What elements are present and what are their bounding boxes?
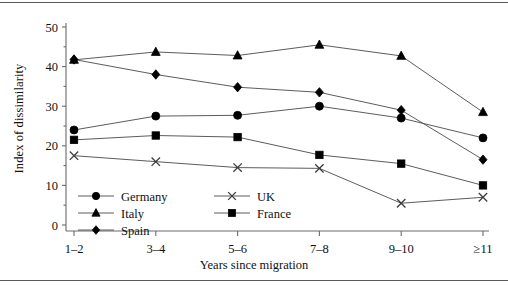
data-point-france	[316, 151, 323, 158]
line-chart-svg: 010203040501–23–45–67–89–10≥11GermanyUKI…	[0, 6, 508, 276]
x-tick-label: 1–2	[65, 242, 84, 256]
legend-marker-germany	[92, 192, 99, 199]
data-point-spain	[479, 155, 487, 164]
legend-label-italy: Italy	[121, 207, 145, 221]
data-point-italy	[479, 107, 488, 115]
data-point-italy	[315, 40, 324, 48]
y-tick-label: 30	[46, 100, 59, 114]
data-point-france	[398, 160, 405, 167]
data-point-spain	[152, 70, 160, 79]
y-tick-label: 20	[46, 139, 59, 153]
data-point-spain	[315, 88, 323, 97]
legend-marker-italy	[92, 209, 100, 217]
data-point-germany	[479, 134, 487, 142]
series-line-spain	[74, 59, 483, 159]
data-point-france	[234, 133, 241, 140]
figure-rule-top	[0, 2, 508, 3]
series-line-italy	[74, 45, 483, 112]
data-point-italy	[151, 47, 160, 55]
plot-area: Index of dissimilarity Years since migra…	[0, 6, 508, 276]
x-tick-label: ≥11	[474, 242, 493, 256]
x-tick-label: 5–6	[228, 242, 247, 256]
legend-label-spain: Spain	[121, 224, 150, 238]
legend-label-germany: Germany	[121, 190, 168, 204]
data-point-germany	[315, 102, 323, 110]
data-point-spain	[234, 82, 242, 91]
data-point-germany	[152, 112, 160, 120]
data-point-germany	[70, 126, 78, 134]
x-tick-label: 3–4	[146, 242, 166, 256]
y-tick-label: 10	[46, 179, 59, 193]
x-tick-label: 9–10	[389, 242, 414, 256]
data-point-france	[70, 136, 77, 143]
x-tick-label: 7–8	[310, 242, 329, 256]
legend-marker-france	[229, 210, 236, 217]
y-tick-label: 50	[46, 21, 59, 35]
y-tick-label: 0	[52, 219, 58, 233]
figure-rule-bottom	[0, 280, 508, 281]
legend-marker-spain	[92, 226, 99, 235]
figure-chart: Index of dissimilarity Years since migra…	[0, 0, 508, 289]
legend-label-uk: UK	[257, 190, 275, 204]
y-tick-label: 40	[46, 60, 59, 74]
data-point-france	[152, 132, 159, 139]
data-point-spain	[397, 105, 405, 114]
legend-label-france: France	[257, 207, 291, 221]
data-point-germany	[234, 111, 242, 119]
data-point-france	[479, 182, 486, 189]
